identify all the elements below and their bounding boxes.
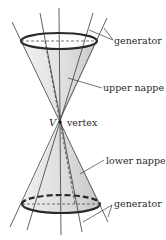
- label-vertex: vertex: [66, 117, 98, 128]
- label-lower-nappe: lower nappe: [106, 155, 166, 166]
- double-napped-cone-diagram: generator upper nappe V vertex lower nap…: [0, 0, 166, 240]
- label-generator-bottom: generator: [114, 198, 162, 209]
- label-layer: generator upper nappe V vertex lower nap…: [0, 0, 166, 240]
- label-generator-top: generator: [114, 35, 162, 46]
- label-upper-nappe: upper nappe: [103, 82, 164, 93]
- label-vertex-symbol: V: [49, 117, 58, 128]
